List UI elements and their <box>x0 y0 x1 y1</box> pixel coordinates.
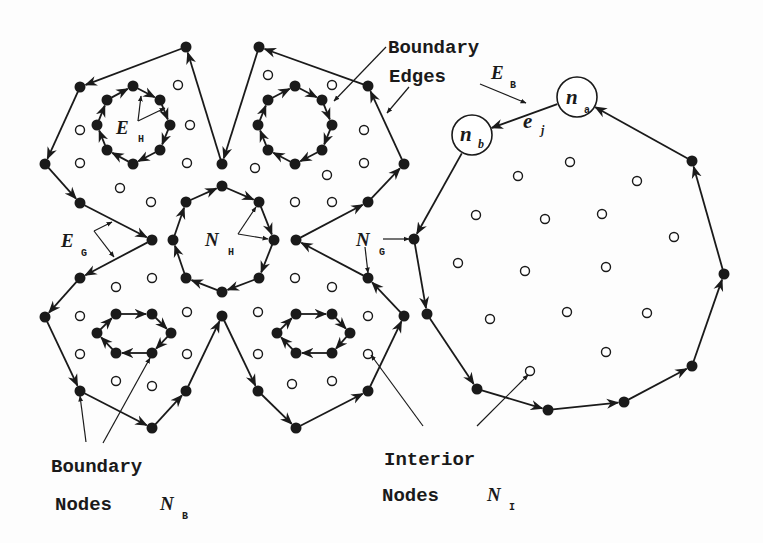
interior-node <box>670 233 679 242</box>
outer-boundary-edge <box>372 282 400 312</box>
interior-node <box>360 126 369 135</box>
interior-node <box>360 159 369 168</box>
interior-node <box>76 350 85 359</box>
diagram-canvas: Boundary Edges Boundary Nodes Interior N… <box>0 0 763 543</box>
outer-boundary-edge <box>262 394 292 423</box>
nh-pointer-2 <box>238 234 268 239</box>
hole-edge <box>324 105 330 120</box>
boundary-node <box>254 273 265 284</box>
boundary-node <box>168 235 179 246</box>
interior-node <box>328 283 337 292</box>
hole-edge <box>175 246 184 274</box>
interior-node <box>602 263 611 272</box>
hole-edge <box>227 188 254 200</box>
ej-subscript: j <box>539 123 545 137</box>
boundary-node <box>147 309 158 320</box>
nb-node-subscript: b <box>478 137 484 151</box>
boundary-node <box>687 156 698 167</box>
interior-node <box>514 172 523 181</box>
boundary-node <box>290 159 301 170</box>
boundary-node <box>181 273 192 284</box>
boundary-node <box>472 384 483 395</box>
interior-node <box>521 267 530 276</box>
boundary-node <box>254 197 265 208</box>
boundary-node <box>687 361 698 372</box>
interior-nodes-pointer-2 <box>477 375 528 426</box>
hole-edge <box>156 337 167 349</box>
interior-node <box>602 348 611 357</box>
boundary-edge <box>694 167 723 269</box>
interior-nodes-label-line2: Nodes <box>382 485 439 507</box>
boundary-nodes-pointer-1 <box>80 396 86 442</box>
eg-symbol: E <box>60 230 74 251</box>
eb-symbol: E <box>490 62 504 83</box>
boundary-node <box>111 309 122 320</box>
interior-node <box>364 350 373 359</box>
boundary-edges-pointer-1 <box>334 47 386 101</box>
boundary-edges-pointer-2 <box>387 87 409 113</box>
boundary-node <box>92 328 103 339</box>
mesh-diagram: Boundary Edges Boundary Nodes Interior N… <box>0 0 763 543</box>
boundary-edge <box>553 403 618 410</box>
boundary-edge <box>430 318 474 384</box>
outer-boundary-edge <box>155 395 182 424</box>
interior-node <box>291 274 300 283</box>
boundary-edge <box>694 280 722 362</box>
boundary-node <box>155 145 166 156</box>
nh-pointer-1 <box>238 207 256 234</box>
interior-node <box>186 121 195 130</box>
boundary-node <box>75 82 86 93</box>
hole-edge <box>111 89 127 98</box>
hole-edge <box>112 153 128 162</box>
interior-node <box>251 164 260 173</box>
outer-boundary-edge <box>300 394 362 426</box>
boundary-node <box>217 159 228 170</box>
hole-edge <box>101 318 112 329</box>
interior-node <box>148 382 157 391</box>
hole-edge <box>191 188 217 200</box>
interior-node <box>148 274 157 283</box>
boundary-node <box>363 81 374 92</box>
boundary-node <box>291 423 302 434</box>
boundary-node <box>128 159 139 170</box>
outer-boundary-edge <box>265 49 364 84</box>
hole-edge <box>162 130 168 145</box>
boundary-node <box>399 311 410 322</box>
boundary-node <box>327 348 338 359</box>
text-labels: Boundary Edges Boundary Nodes Interior N… <box>51 37 590 522</box>
boundary-node <box>363 197 374 208</box>
hole-edge <box>137 88 154 97</box>
boundary-node <box>409 234 420 245</box>
interior-node <box>541 215 550 224</box>
interior-node <box>288 380 297 389</box>
outer-boundary-edge <box>48 168 76 199</box>
outer-boundary-edge <box>49 282 77 313</box>
hole-edge <box>99 106 105 121</box>
hole-edge <box>335 318 345 329</box>
boundary-node <box>217 311 228 322</box>
boundary-node <box>166 328 177 339</box>
ng-subscript: G <box>379 247 385 258</box>
interior-node <box>472 211 481 220</box>
eh-symbol: E <box>115 117 129 138</box>
boundary-edge <box>415 244 426 308</box>
hole-edge <box>261 245 272 273</box>
interior-node <box>323 171 332 180</box>
boundary-node <box>181 386 192 397</box>
boundary-node <box>363 386 374 397</box>
boundary-nodes <box>40 42 730 434</box>
interior-node <box>486 315 495 324</box>
boundary-node <box>147 235 158 246</box>
boundary-node <box>102 95 113 106</box>
hole-edge <box>260 131 266 146</box>
boundary-node <box>272 328 283 339</box>
boundary-node <box>263 145 274 156</box>
outer-boundary-edge <box>47 322 77 386</box>
interior-node <box>112 377 121 386</box>
boundary-node <box>327 309 338 320</box>
boundary-node <box>92 120 103 131</box>
interior-node <box>147 198 156 207</box>
na-subscript: a <box>584 105 590 116</box>
interior-node <box>264 71 273 80</box>
boundary-node <box>147 348 158 359</box>
